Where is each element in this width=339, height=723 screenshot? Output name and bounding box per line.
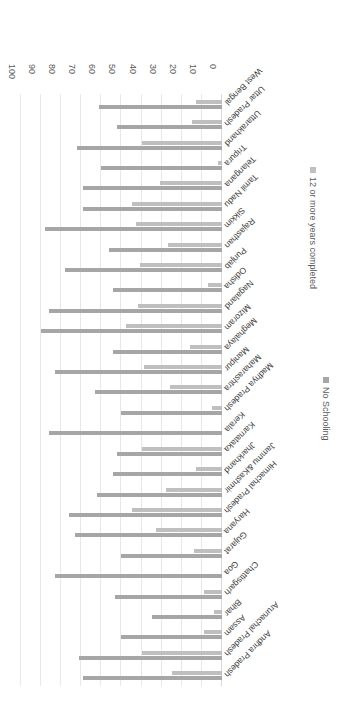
bar[interactable] bbox=[49, 309, 222, 313]
bar[interactable] bbox=[49, 431, 222, 435]
x-tick-label: 40 bbox=[128, 64, 138, 74]
bar[interactable] bbox=[138, 304, 222, 308]
x-tick-label: 60 bbox=[87, 64, 97, 74]
bar-group bbox=[21, 426, 222, 435]
bar[interactable] bbox=[65, 268, 222, 272]
bar[interactable] bbox=[152, 615, 222, 619]
x-tick-label: 80 bbox=[47, 64, 57, 74]
category-label: Punjab bbox=[222, 245, 248, 271]
bar-group bbox=[21, 610, 222, 619]
bar[interactable] bbox=[208, 283, 222, 287]
bar[interactable] bbox=[194, 549, 222, 553]
x-tick-label: 90 bbox=[27, 64, 37, 74]
legend-swatch-icon bbox=[323, 377, 329, 383]
bar-group bbox=[21, 100, 222, 109]
bar[interactable] bbox=[115, 595, 222, 599]
bar-group bbox=[21, 467, 222, 476]
bar-group bbox=[21, 283, 222, 292]
legend-item[interactable]: No Schooling bbox=[321, 377, 331, 441]
bar-group bbox=[21, 120, 222, 129]
bar-group bbox=[21, 406, 222, 415]
bar[interactable] bbox=[166, 488, 222, 492]
bar[interactable] bbox=[214, 610, 222, 614]
bar[interactable] bbox=[113, 288, 222, 292]
x-tick-label: 30 bbox=[148, 64, 158, 74]
x-tick-label: 0 bbox=[208, 64, 218, 69]
bar-group bbox=[21, 386, 222, 395]
bar[interactable] bbox=[117, 452, 222, 456]
bar-group bbox=[21, 549, 222, 558]
chart-legend: No Schooling12 or more years completed bbox=[305, 167, 331, 547]
bar[interactable] bbox=[113, 472, 222, 476]
bar-group bbox=[21, 263, 222, 272]
bar[interactable] bbox=[136, 222, 222, 226]
bar[interactable] bbox=[170, 386, 222, 390]
x-tick-label: 100 bbox=[7, 64, 17, 79]
x-axis-tick-labels: 0102030405060708090100 bbox=[21, 54, 222, 94]
legend-item[interactable]: 12 or more years completed bbox=[308, 167, 318, 289]
bar[interactable] bbox=[55, 574, 222, 578]
bar[interactable] bbox=[83, 676, 222, 680]
bar[interactable] bbox=[160, 181, 222, 185]
bar[interactable] bbox=[172, 671, 222, 675]
bar-group bbox=[21, 324, 222, 333]
bar[interactable] bbox=[95, 391, 222, 395]
bar-group bbox=[21, 508, 222, 517]
bar-group bbox=[21, 345, 222, 354]
bar-group bbox=[21, 447, 222, 456]
bar[interactable] bbox=[132, 202, 222, 206]
bar[interactable] bbox=[156, 528, 222, 532]
bar[interactable] bbox=[77, 146, 222, 150]
bar[interactable] bbox=[204, 630, 222, 634]
bar[interactable] bbox=[113, 350, 222, 354]
bar[interactable] bbox=[97, 493, 222, 497]
bar[interactable] bbox=[83, 207, 222, 211]
bar-group bbox=[21, 671, 222, 680]
bar[interactable] bbox=[101, 166, 222, 170]
bar-group bbox=[21, 141, 222, 150]
bar[interactable] bbox=[55, 370, 222, 374]
bar[interactable] bbox=[69, 513, 222, 517]
bar-group bbox=[21, 243, 222, 252]
bar[interactable] bbox=[144, 365, 222, 369]
bar[interactable] bbox=[122, 554, 223, 558]
bar[interactable] bbox=[196, 100, 222, 104]
bar[interactable] bbox=[109, 248, 222, 252]
bar[interactable] bbox=[117, 125, 222, 129]
bar-group bbox=[21, 181, 222, 190]
bar[interactable] bbox=[212, 406, 222, 410]
bar[interactable] bbox=[79, 656, 222, 660]
bar[interactable] bbox=[126, 324, 222, 328]
bar[interactable] bbox=[196, 467, 222, 471]
bar[interactable] bbox=[192, 120, 222, 124]
bar-group bbox=[21, 365, 222, 374]
bar-group bbox=[21, 202, 222, 211]
bar[interactable] bbox=[204, 590, 222, 594]
bar-group bbox=[21, 590, 222, 599]
bar[interactable] bbox=[190, 345, 222, 349]
bar[interactable] bbox=[142, 141, 222, 145]
x-tick-label: 20 bbox=[168, 64, 178, 74]
bar-group bbox=[21, 528, 222, 537]
bar[interactable] bbox=[142, 651, 222, 655]
bar-group bbox=[21, 630, 222, 639]
bar[interactable] bbox=[41, 329, 222, 333]
legend-label: 12 or more years completed bbox=[308, 177, 318, 289]
bar-group bbox=[21, 222, 222, 231]
bar[interactable] bbox=[168, 243, 222, 247]
bar[interactable] bbox=[132, 508, 222, 512]
bar-group bbox=[21, 488, 222, 497]
bar[interactable] bbox=[45, 227, 222, 231]
bar[interactable] bbox=[75, 533, 222, 537]
legend-swatch-icon bbox=[310, 167, 316, 173]
legend-label: No Schooling bbox=[321, 387, 331, 441]
bar[interactable] bbox=[142, 447, 222, 451]
x-tick-label: 10 bbox=[188, 64, 198, 74]
bar[interactable] bbox=[122, 411, 223, 415]
bar[interactable] bbox=[99, 105, 222, 109]
plot-area bbox=[21, 94, 222, 686]
bar[interactable] bbox=[83, 186, 222, 190]
bar[interactable] bbox=[140, 263, 222, 267]
bar[interactable] bbox=[122, 635, 223, 639]
bar-group bbox=[21, 651, 222, 660]
